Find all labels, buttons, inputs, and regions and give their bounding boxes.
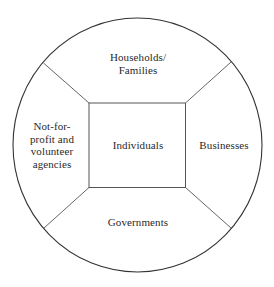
center-label: Individuals [113, 139, 164, 152]
sector-right-line-1: Businesses [199, 139, 248, 152]
sector-left-line-1: Not-for- [30, 120, 74, 133]
sector-left-line-2: profit and [30, 133, 74, 146]
sector-right-label: Businesses [199, 139, 248, 152]
sector-left-line-3: volunteer [30, 145, 74, 158]
sector-top-line-1: Households/ [110, 51, 166, 64]
center-label-text: Individuals [113, 139, 164, 152]
divider-bottom-right [186, 188, 232, 229]
divider-top-right [186, 62, 232, 103]
sector-bottom-line-1: Governments [108, 216, 168, 229]
sector-top-line-2: Families [110, 63, 166, 76]
sector-left-label: Not-for- profit and volunteer agencies [30, 120, 74, 170]
sector-bottom-label: Governments [108, 216, 168, 229]
sector-top-label: Households/ Families [110, 51, 166, 76]
sector-left-line-4: agencies [30, 158, 74, 171]
divider-top-left [44, 63, 90, 103]
divider-bottom-left [44, 188, 89, 229]
